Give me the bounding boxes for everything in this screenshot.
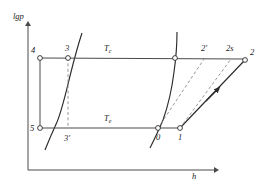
- lgp-h-diagram: lgp h Tc Te 4 3 2' 2s 2 5 3' 0 1: [0, 0, 268, 190]
- marker-point-0: [156, 126, 161, 131]
- point-label-5: 5: [30, 124, 34, 133]
- point-label-0: 0: [156, 133, 160, 142]
- compression-direction-arrow-icon: [206, 89, 218, 101]
- point-label-2: 2: [250, 48, 254, 57]
- line-0-to-2prime: [158, 59, 204, 128]
- state-point-markers: [38, 56, 248, 131]
- marker-point-tc-sat: [173, 56, 178, 61]
- point-label-3prime: 3': [64, 134, 70, 143]
- compression-real-line: [180, 61, 244, 128]
- condensing-isotherm-label: Tc: [104, 44, 111, 53]
- isentropic-line-1-to-2s: [180, 59, 231, 128]
- point-label-4: 4: [31, 46, 35, 55]
- x-axis-label: h: [192, 172, 196, 181]
- marker-point-4: [38, 56, 43, 61]
- y-axis-label: lgp: [13, 12, 24, 21]
- point-label-2prime: 2': [201, 44, 207, 53]
- evaporating-isotherm-label: Te: [104, 114, 111, 123]
- axis-lines: [28, 24, 216, 170]
- diagram-canvas: [0, 0, 268, 190]
- marker-point-1: [178, 126, 183, 131]
- marker-point-2: [243, 58, 248, 63]
- dashed-construction-lines: [68, 58, 231, 128]
- saturated-vapor-curve: [150, 32, 177, 148]
- marker-point-3: [66, 56, 71, 61]
- marker-point-5: [38, 126, 43, 131]
- point-label-2s: 2s: [226, 44, 234, 53]
- point-label-1: 1: [178, 133, 182, 142]
- point-label-3: 3: [65, 44, 69, 53]
